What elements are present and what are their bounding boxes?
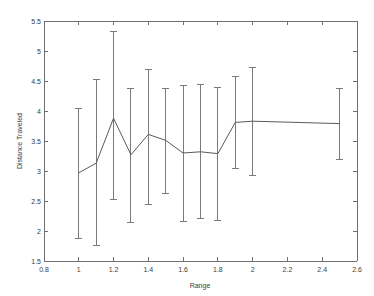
x-tick-label: 2 bbox=[251, 266, 255, 273]
x-tick-label: 2.2 bbox=[283, 266, 293, 273]
x-tick-label: 1.8 bbox=[213, 266, 223, 273]
y-tick-label: 2.5 bbox=[31, 198, 41, 205]
y-tick-label: 1.5 bbox=[31, 258, 41, 265]
x-tick-label: 1.6 bbox=[178, 266, 188, 273]
x-axis-tick-labels: 0.811.21.41.61.822.22.42.6 bbox=[39, 266, 362, 273]
y-tick-label: 2 bbox=[37, 228, 41, 235]
line-chart-with-error-bars: 0.811.21.41.61.822.22.42.6 1.522.533.544… bbox=[0, 0, 374, 296]
x-tick-label: 2.4 bbox=[317, 266, 327, 273]
x-tick-label: 0.8 bbox=[39, 266, 49, 273]
series-polyline bbox=[79, 118, 340, 173]
y-tick-label: 5.5 bbox=[31, 18, 41, 25]
x-axis-title: Range bbox=[190, 282, 211, 290]
y-tick-label: 3 bbox=[37, 168, 41, 175]
y-axis-tick-labels: 1.522.533.544.555.5 bbox=[31, 18, 41, 265]
y-tick-label: 5 bbox=[37, 48, 41, 55]
y-axis-title: Distance Traveled bbox=[16, 113, 23, 169]
y-tick-label: 4.5 bbox=[31, 78, 41, 85]
x-tick-label: 2.6 bbox=[352, 266, 362, 273]
y-tick-label: 3.5 bbox=[31, 138, 41, 145]
x-tick-label: 1.2 bbox=[109, 266, 119, 273]
chart-figure: 0.811.21.41.61.822.22.42.6 1.522.533.544… bbox=[0, 0, 374, 296]
x-tick-label: 1.4 bbox=[143, 266, 153, 273]
y-tick-label: 4 bbox=[37, 108, 41, 115]
data-series-line bbox=[79, 118, 340, 173]
x-tick-label: 1 bbox=[77, 266, 81, 273]
error-bars bbox=[75, 31, 343, 245]
